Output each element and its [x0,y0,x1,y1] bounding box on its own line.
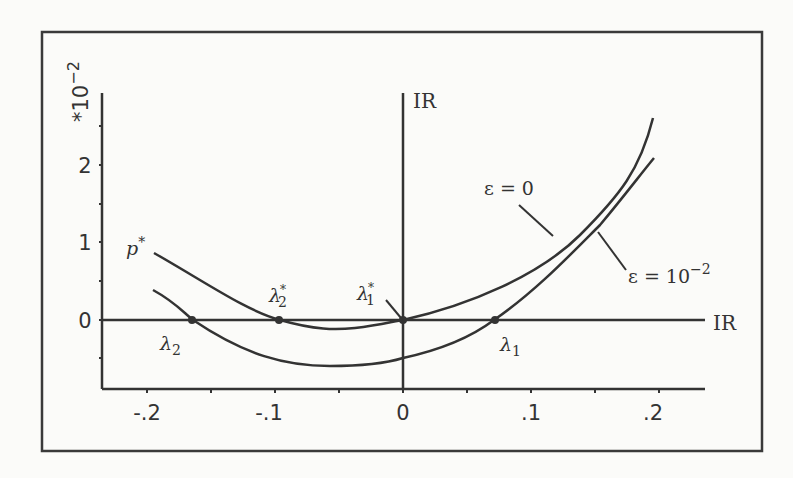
x-tick-label: .1 [521,401,541,425]
chart: -.2 -.1 0 .1 .2 2 1 0 *10−2 IR IR ε = 0 … [0,0,793,478]
x-tick-label: -.1 [255,401,283,425]
leader-lambda1-star [386,300,401,318]
svg-text:*10−2: *10−2 [64,61,93,122]
y-axis-label-IR: IR [413,89,437,113]
label-lambda2: λ2 [159,332,181,358]
y-scale-label: *10−2 [64,61,93,122]
point-lambda2 [188,316,196,324]
leader-eps1 [598,232,626,270]
label-eps1: ε = 10−2 [628,261,711,287]
y-tick-label: 1 [78,231,91,255]
leader-eps0 [519,205,553,236]
label-lambda1: λ1 [499,333,521,359]
x-axis-label-IR: IR [713,311,737,335]
x-tick-label: -.2 [133,401,161,425]
label-lambda2-star: λ*2 [268,283,287,310]
point-lambda1 [491,316,499,324]
y-tick-label: 0 [78,309,91,333]
label-eps0: ε = 0 [484,177,534,199]
label-p-star: p* [126,234,145,259]
x-tick-label: .2 [643,401,663,425]
label-lambda1-star: λ*1 [356,281,375,308]
y-tick-label: 2 [78,154,91,178]
point-lambda2-star [275,316,283,324]
x-tick-label: 0 [396,401,409,425]
